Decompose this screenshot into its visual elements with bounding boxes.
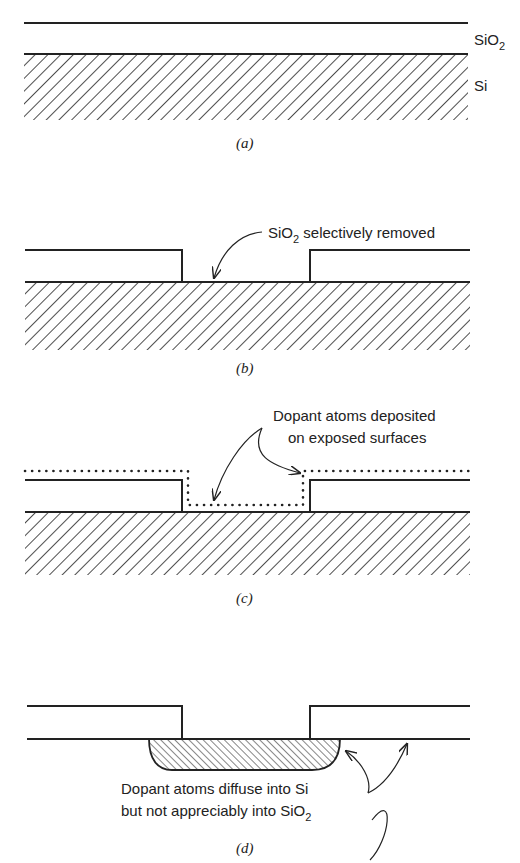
planar-diffusion-diagram: SiO2 Si (a) SiO2 selectively removed (b)… — [0, 0, 520, 863]
silicon-substrate-hatch — [24, 54, 468, 120]
oxide-with-window — [27, 706, 470, 739]
panel-c: Dopant atoms deposited on exposed surfac… — [25, 407, 472, 607]
caption-c: (c) — [236, 590, 253, 607]
annotation-line2: on exposed surfaces — [288, 429, 426, 446]
oxide-with-window — [25, 250, 470, 282]
annotation-line1: Dopant atoms deposited — [273, 407, 436, 424]
annotation-line2: but not appreciably into SiO2 — [121, 802, 311, 823]
panel-a: SiO2 Si (a) — [24, 23, 505, 152]
arrow-icon — [368, 744, 407, 793]
si-label: Si — [474, 77, 487, 94]
caption-b: (b) — [236, 360, 254, 377]
caption-a: (a) — [236, 135, 254, 152]
arrow-icon — [214, 232, 262, 278]
arrow-icon — [346, 751, 369, 793]
sio2-label: SiO2 — [474, 31, 505, 52]
panel-d: Dopant atoms diffuse into Si but not app… — [27, 706, 470, 863]
annotation-oxide-removed: SiO2 selectively removed — [268, 224, 435, 245]
diffused-region — [149, 739, 340, 770]
oxide-with-window — [25, 480, 470, 512]
caption-d: (d) — [236, 840, 254, 857]
dopant-deposit-dotted — [25, 471, 472, 505]
silicon-substrate-hatch — [25, 282, 470, 350]
arrow-icon — [214, 428, 262, 500]
annotation-line1: Dopant atoms diffuse into Si — [121, 780, 308, 797]
silicon-substrate-hatch — [25, 512, 470, 575]
panel-b: SiO2 selectively removed (b) — [25, 224, 470, 377]
